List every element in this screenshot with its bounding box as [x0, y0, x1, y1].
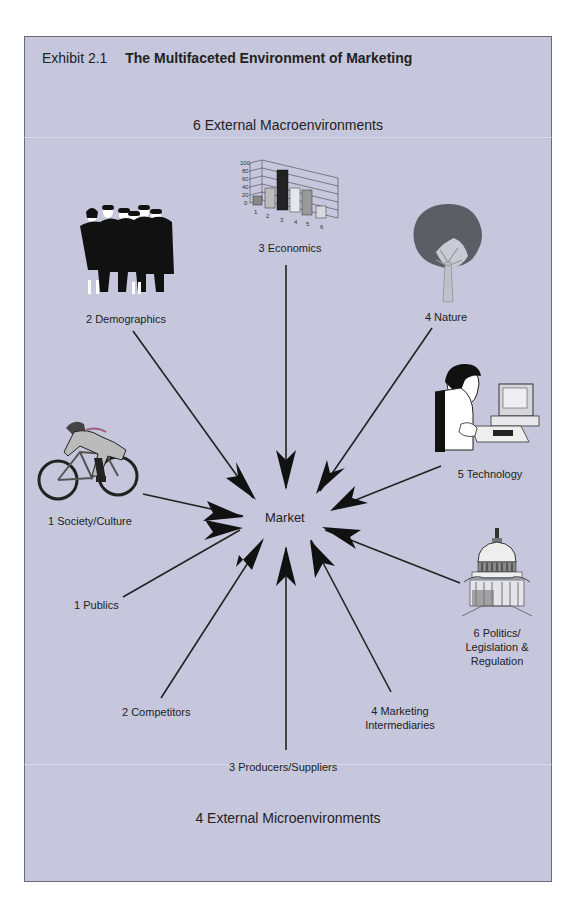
economics-bar-chart-icon: 100 80 60 40 20 0 1 2 3 4: [240, 158, 340, 230]
svg-text:2: 2: [266, 213, 270, 219]
computer-user-icon: [435, 362, 540, 452]
svg-text:4: 4: [294, 219, 298, 225]
label-competitors: 2 Competitors: [122, 705, 190, 719]
svg-text:20: 20: [242, 192, 249, 198]
tree-icon: [412, 200, 484, 305]
arrow-competitors: [161, 541, 262, 698]
svg-text:1: 1: [254, 209, 258, 215]
label-politics-line-3: Regulation: [452, 654, 542, 668]
arrow-publics: [123, 530, 240, 597]
label-producers-suppliers: 3 Producers/Suppliers: [229, 760, 337, 774]
arrow-nature: [320, 328, 432, 491]
svg-text:5: 5: [306, 221, 310, 227]
label-technology: 5 Technology: [450, 467, 530, 481]
cyclist-icon: [36, 412, 142, 504]
label-politics-line-1: 6 Politics/: [452, 626, 542, 640]
label-intermediaries-line-2: Intermediaries: [364, 718, 436, 732]
svg-text:100: 100: [240, 160, 251, 166]
label-nature: 4 Nature: [410, 310, 482, 324]
label-intermediaries-line-1: 4 Marketing: [364, 704, 436, 718]
label-politics-legislation-regulation: 6 Politics/ Legislation & Regulation: [452, 626, 542, 668]
svg-text:40: 40: [242, 184, 249, 190]
capitol-building-icon: [462, 526, 532, 618]
label-society-culture: 1 Society/Culture: [40, 514, 140, 528]
people-group-icon: [78, 204, 178, 300]
svg-text:3: 3: [280, 217, 284, 223]
label-publics: 1 Publics: [74, 598, 119, 612]
market-center-label: Market: [265, 510, 305, 525]
label-economics: 3 Economics: [250, 241, 330, 255]
arrow-demographics: [133, 331, 253, 498]
label-politics-line-2: Legislation &: [452, 640, 542, 654]
svg-text:6: 6: [320, 224, 324, 230]
label-demographics: 2 Demographics: [76, 312, 176, 326]
svg-text:60: 60: [242, 176, 249, 182]
svg-text:0: 0: [244, 200, 248, 206]
svg-text:80: 80: [242, 168, 249, 174]
label-marketing-intermediaries: 4 Marketing Intermediaries: [364, 704, 436, 732]
